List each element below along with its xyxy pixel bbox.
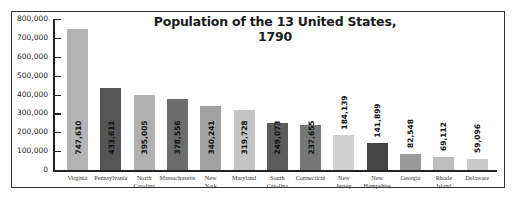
- x-axis: [53, 170, 497, 172]
- bar-new-hampshire: [367, 143, 388, 170]
- y-tick-label: 300,000: [4, 108, 48, 117]
- y-tick-mark: [53, 113, 61, 114]
- value-label: 433,611: [106, 120, 115, 154]
- y-tick-label: 500,000: [4, 71, 48, 80]
- value-label: 249,073: [273, 120, 282, 154]
- value-label: 395,005: [140, 120, 149, 154]
- x-tick-label: Delaware: [455, 174, 499, 182]
- y-tick-mark: [53, 132, 61, 133]
- bar-delaware: [467, 159, 488, 170]
- y-tick-mark: [53, 57, 61, 58]
- value-label: 82,548: [406, 119, 415, 148]
- value-label: 184,139: [339, 95, 348, 129]
- value-label: 69,112: [439, 122, 448, 151]
- value-label: 59,096: [473, 124, 482, 153]
- value-label: 378,556: [173, 120, 182, 154]
- y-tick-label: 600,000: [4, 52, 48, 61]
- y-tick-mark: [53, 170, 61, 171]
- y-tick-label: 0: [4, 165, 48, 174]
- y-tick-mark: [53, 38, 61, 39]
- value-label: 340,241: [206, 120, 215, 154]
- plot-area: 0100,000200,000300,000400,000500,000600,…: [0, 0, 513, 205]
- bar-new-jersey: [333, 135, 354, 170]
- value-label: 319,728: [240, 120, 249, 154]
- y-tick-label: 700,000: [4, 33, 48, 42]
- y-tick-mark: [53, 95, 61, 96]
- bar-rhode-island: [433, 157, 454, 170]
- y-tick-label: 800,000: [4, 14, 48, 23]
- value-label: 237,655: [306, 120, 315, 154]
- y-tick-mark: [53, 151, 61, 152]
- value-label: 747,610: [73, 120, 82, 154]
- y-tick-label: 200,000: [4, 127, 48, 136]
- bar-georgia: [400, 154, 421, 170]
- y-tick-label: 400,000: [4, 90, 48, 99]
- y-tick-mark: [53, 76, 61, 77]
- value-label: 141,899: [373, 103, 382, 137]
- y-tick-label: 100,000: [4, 146, 48, 155]
- y-tick-mark: [53, 19, 61, 20]
